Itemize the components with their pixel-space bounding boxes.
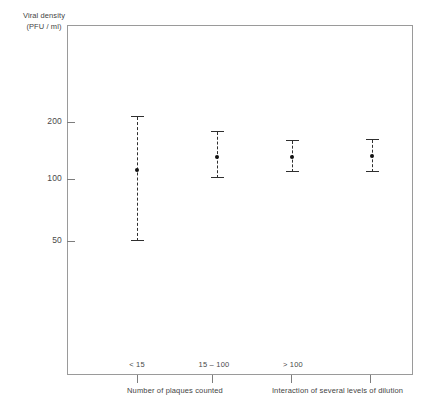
errorbar-cap-upper [366, 139, 379, 140]
y-tick-label-200: 200 [22, 116, 62, 126]
data-point-marker [370, 154, 374, 158]
errorbar-cap-lower [286, 171, 299, 172]
errorbar-cap-lower [211, 177, 224, 178]
plot-area [67, 25, 413, 375]
errorbar-cap-upper [131, 116, 144, 117]
data-point-marker [215, 155, 219, 159]
x-tick-mark-4 [370, 375, 371, 383]
y-tick-mark-50 [67, 241, 75, 242]
x-tick-mark-2 [212, 375, 213, 383]
errorbar-cap-lower [366, 171, 379, 172]
y-axis-title-line1: Viral density [23, 11, 65, 20]
x-tick-label-15-100: 15 – 100 [174, 360, 254, 369]
x-tick-mark-1 [137, 375, 138, 383]
caption-interaction-dilution: Interaction of several levels of dilutio… [250, 386, 425, 395]
errorbar-line [137, 117, 138, 241]
y-tick-label-50: 50 [22, 235, 62, 245]
y-tick-mark-200 [67, 122, 75, 123]
chart-figure: Viral density (PFU / ml) 200 100 50 < 15… [0, 0, 426, 409]
errorbar-cap-lower [131, 240, 144, 241]
data-point-marker [290, 155, 294, 159]
y-tick-label-100: 100 [22, 173, 62, 183]
errorbar-cap-upper [286, 140, 299, 141]
x-tick-mark-3 [291, 375, 292, 383]
y-tick-mark-100 [67, 179, 75, 180]
errorbar-cap-upper [211, 131, 224, 132]
x-tick-label-lt15: < 15 [97, 360, 177, 369]
data-point-marker [135, 168, 139, 172]
caption-number-of-plaques: Number of plaques counted [95, 386, 255, 395]
x-tick-label-gt100: > 100 [253, 360, 333, 369]
